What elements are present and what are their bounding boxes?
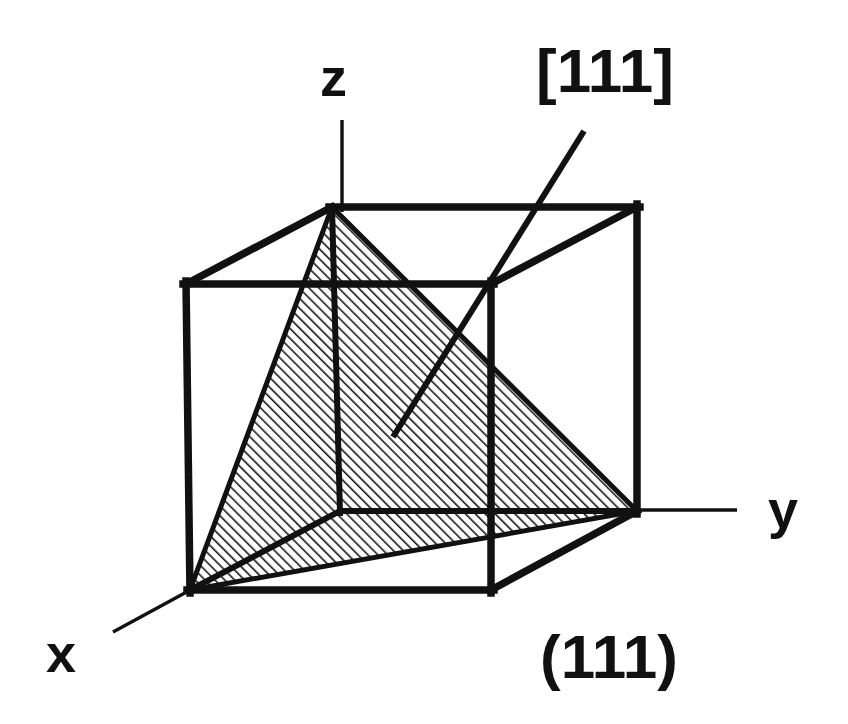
- plane-111-label: (111): [540, 622, 678, 691]
- cube-edge-front-left: [186, 281, 190, 593]
- diagram-canvas: z y x [111] (111): [0, 0, 848, 724]
- z-axis-label: z: [320, 47, 347, 107]
- direction-111-label: [111]: [536, 36, 674, 105]
- miller-index-figure: z y x [111] (111): [0, 0, 848, 724]
- x-axis-label: x: [46, 623, 76, 683]
- y-axis-label: y: [768, 479, 798, 539]
